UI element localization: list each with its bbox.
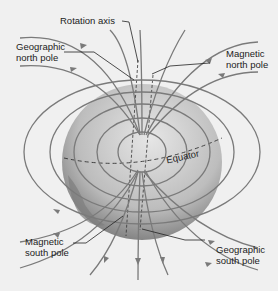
label-rotation-axis: Rotation axis [60, 15, 115, 26]
label-line: Geographic [216, 244, 265, 255]
label-magnetic-north-pole: Magnetic north pole [226, 48, 268, 70]
label-line: Magnetic [25, 236, 69, 247]
label-line: Magnetic [226, 48, 268, 59]
label-line: south pole [216, 255, 265, 266]
label-line: north pole [16, 52, 65, 63]
label-geographic-south-pole: Geographic south pole [216, 244, 265, 266]
label-line: Geographic [16, 41, 65, 52]
label-line: north pole [226, 59, 268, 70]
label-geographic-north-pole: Geographic north pole [16, 41, 65, 63]
label-line: south pole [25, 247, 69, 258]
label-magnetic-south-pole: Magnetic south pole [25, 236, 69, 258]
